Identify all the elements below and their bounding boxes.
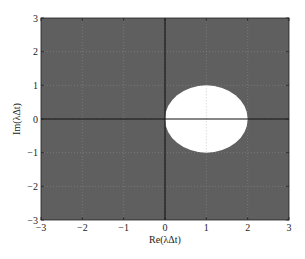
x-tick-label: −1: [118, 222, 129, 233]
y-tick-label: −1: [27, 147, 38, 158]
y-tick-label: 3: [33, 13, 38, 24]
x-tick-label: 1: [204, 222, 209, 233]
y-axis-label: Im(λΔt): [11, 103, 23, 135]
stability-region-chart: −3−2−10123 −3−2−10123 Re(λΔt) Im(λΔt): [0, 0, 305, 259]
y-tick-label: 1: [33, 80, 38, 91]
y-tick-label: 0: [33, 114, 38, 125]
x-axis-label: Re(λΔt): [149, 234, 181, 246]
x-tick-label: 0: [163, 222, 168, 233]
plot-area: [41, 18, 289, 220]
x-tick-label: −2: [77, 222, 88, 233]
x-tick-label: 2: [245, 222, 250, 233]
y-tick-label: 2: [33, 46, 38, 57]
x-tick-label: 3: [287, 222, 292, 233]
y-tick-label: −3: [27, 215, 38, 226]
y-tick-label: −2: [27, 181, 38, 192]
